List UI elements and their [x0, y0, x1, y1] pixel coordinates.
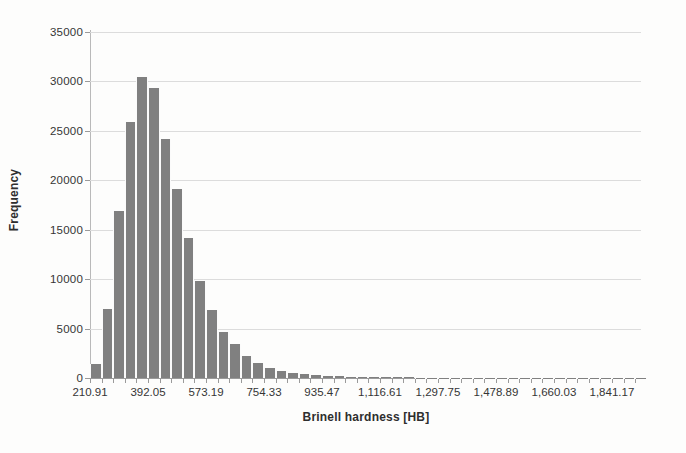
x-tick-label: 1,116.61	[358, 386, 402, 398]
x-tick-label: 392.05	[130, 386, 165, 398]
y-tick-label: 5000	[57, 323, 83, 335]
bar	[90, 364, 102, 378]
x-tick-mark	[206, 379, 207, 383]
x-tick-mark	[542, 379, 543, 383]
bar	[218, 332, 230, 378]
bar	[183, 238, 195, 378]
bar	[252, 363, 264, 378]
x-tick-label: 573.19	[188, 386, 223, 398]
x-tick-mark	[357, 379, 358, 383]
bar	[148, 88, 160, 378]
x-tick-mark	[287, 379, 288, 383]
x-tick-mark	[461, 379, 462, 383]
x-tick-mark	[600, 379, 601, 383]
x-tick-mark	[496, 379, 497, 383]
x-tick-mark	[276, 379, 277, 383]
x-tick-mark	[125, 379, 126, 383]
x-tick-mark	[345, 379, 346, 383]
x-tick-label: 210.91	[72, 386, 107, 398]
x-axis-ticks: 210.91392.05573.19754.33935.471,116.611,…	[90, 379, 642, 409]
y-tick-label: 30000	[50, 75, 83, 87]
x-tick-mark	[136, 379, 137, 383]
x-tick-label: 1,297.75	[416, 386, 461, 398]
x-axis-label: Brinell hardness [HB]	[90, 410, 642, 424]
x-tick-label: 1,841.17	[590, 386, 635, 398]
bar	[229, 344, 241, 378]
bar	[380, 377, 392, 378]
histogram-figure: Frequency 050001000015000200002500030000…	[0, 0, 686, 453]
x-tick-mark	[310, 379, 311, 383]
y-tick-label: 25000	[50, 125, 83, 137]
y-tick-label: 15000	[50, 224, 83, 236]
bar	[368, 377, 380, 378]
bar	[322, 376, 334, 378]
x-tick-label: 935.47	[304, 386, 339, 398]
bar	[206, 310, 218, 378]
bar	[276, 371, 288, 378]
x-tick-mark	[183, 379, 184, 383]
x-tick-mark	[566, 379, 567, 383]
x-tick-mark	[426, 379, 427, 383]
x-tick-mark	[264, 379, 265, 383]
x-tick-mark	[334, 379, 335, 383]
x-tick-mark	[612, 379, 613, 383]
bar	[194, 281, 206, 378]
x-tick-mark	[519, 379, 520, 383]
bar	[241, 356, 253, 378]
x-tick-mark	[148, 379, 149, 383]
x-tick-mark	[299, 379, 300, 383]
x-tick-mark	[322, 379, 323, 383]
x-tick-mark	[252, 379, 253, 383]
x-tick-mark	[403, 379, 404, 383]
x-tick-mark	[438, 379, 439, 383]
x-tick-mark	[392, 379, 393, 383]
bar	[264, 368, 276, 378]
x-tick-mark	[194, 379, 195, 383]
gridline	[90, 81, 641, 82]
x-tick-mark	[171, 379, 172, 383]
x-tick-mark	[102, 379, 103, 383]
bar	[160, 139, 172, 378]
bar	[403, 377, 415, 378]
bar	[125, 122, 137, 378]
x-tick-mark	[229, 379, 230, 383]
bar	[345, 377, 357, 378]
x-tick-mark	[589, 379, 590, 383]
y-tick-label: 10000	[50, 273, 83, 285]
bar	[102, 309, 114, 378]
bar	[392, 377, 404, 378]
x-tick-mark	[554, 379, 555, 383]
x-tick-mark	[380, 379, 381, 383]
x-tick-mark	[473, 379, 474, 383]
x-tick-label: 754.33	[246, 386, 281, 398]
gridline	[90, 180, 641, 181]
x-tick-mark	[90, 379, 91, 383]
bar	[287, 373, 299, 378]
x-tick-mark	[415, 379, 416, 383]
bar	[357, 377, 369, 378]
x-tick-mark	[531, 379, 532, 383]
y-tick-label: 35000	[50, 26, 83, 38]
x-tick-mark	[241, 379, 242, 383]
x-tick-label: 1,660.03	[532, 386, 577, 398]
bar	[136, 77, 148, 379]
x-tick-mark	[450, 379, 451, 383]
bar	[310, 375, 322, 378]
x-tick-mark	[218, 379, 219, 383]
gridline	[90, 32, 641, 33]
plot-area	[90, 32, 641, 378]
bar	[113, 211, 125, 378]
x-tick-mark	[113, 379, 114, 383]
x-tick-label: 1,478.89	[474, 386, 519, 398]
x-tick-mark	[508, 379, 509, 383]
bar	[334, 376, 346, 378]
x-tick-mark	[160, 379, 161, 383]
gridline	[90, 131, 641, 132]
x-tick-mark	[624, 379, 625, 383]
y-tick-label: 20000	[50, 174, 83, 186]
y-tick-label: 0	[76, 372, 83, 384]
bar	[171, 189, 183, 378]
x-tick-mark	[484, 379, 485, 383]
x-tick-mark	[635, 379, 636, 383]
bar	[299, 374, 311, 378]
